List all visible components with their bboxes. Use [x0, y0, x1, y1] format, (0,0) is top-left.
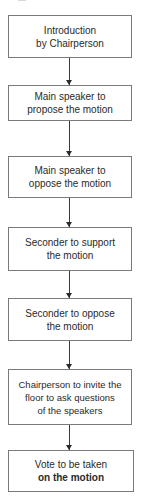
- step-line: Chairperson to invite the: [19, 378, 122, 391]
- step-text: Seconder to support the motion: [25, 236, 115, 262]
- step-line: by Chairperson: [36, 37, 104, 50]
- step-text: Introduction by Chairperson: [36, 24, 104, 50]
- down-arrow-icon: [69, 341, 70, 369]
- step-line: of the speakers: [19, 404, 122, 417]
- step-line: floor to ask questions: [19, 391, 122, 404]
- down-arrow-icon: [69, 425, 70, 450]
- step-line: Vote to be taken: [35, 458, 107, 471]
- down-arrow-icon: [69, 121, 70, 156]
- step-line: the motion: [25, 320, 115, 333]
- step-oppose-box: Main speaker to oppose the motion: [8, 156, 132, 198]
- step-text: Seconder to oppose the motion: [25, 307, 115, 333]
- step-line: the motion: [25, 249, 115, 262]
- step-propose-box: Main speaker to propose the motion: [8, 85, 132, 121]
- step-line: Seconder to oppose: [25, 307, 115, 320]
- step-line: Introduction: [36, 24, 104, 37]
- step-line: Main speaker to: [27, 90, 113, 103]
- down-arrow-icon: [69, 271, 70, 298]
- step-line: propose the motion: [27, 103, 113, 116]
- step-vote-box: Vote to be taken on the motion: [8, 450, 134, 492]
- step-seconder-oppose-box: Seconder to oppose the motion: [8, 298, 132, 341]
- step-text: Main speaker to propose the motion: [27, 90, 113, 116]
- step-text: Vote to be taken on the motion: [35, 458, 107, 484]
- step-line: oppose the motion: [29, 177, 111, 190]
- down-arrow-icon: [69, 58, 70, 85]
- step-line: Main speaker to: [29, 164, 111, 177]
- down-arrow-icon: [69, 198, 70, 227]
- step-text: Main speaker to oppose the motion: [29, 164, 111, 190]
- step-text: Chairperson to invite the floor to ask q…: [19, 378, 122, 417]
- step-seconder-support-box: Seconder to support the motion: [8, 227, 132, 271]
- step-line: on the motion: [35, 471, 107, 484]
- cropped-fragment: [18, 0, 26, 1]
- step-line: Seconder to support: [25, 236, 115, 249]
- step-introduction-box: Introduction by Chairperson: [8, 15, 132, 58]
- step-floor-questions-box: Chairperson to invite the floor to ask q…: [8, 369, 132, 425]
